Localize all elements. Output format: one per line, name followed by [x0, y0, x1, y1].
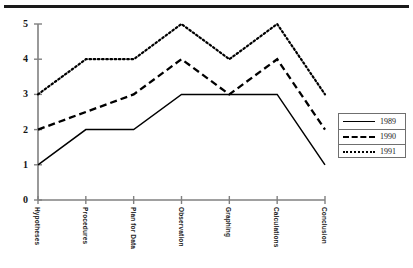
series-lines — [38, 24, 325, 165]
legend-item-1989: 1989 — [339, 114, 405, 129]
x-axis-tick-label: Calculations — [273, 207, 280, 247]
series-line-1991 — [38, 24, 325, 94]
y-axis-tick-label: 4 — [12, 54, 28, 64]
x-axis-tick-label: Observation — [178, 207, 185, 247]
legend-label-1989: 1989 — [380, 117, 396, 126]
x-axis-tick-label: Hypotheses — [34, 207, 41, 245]
chart-legend: 198919901991 — [338, 113, 406, 158]
legend-swatch-1989 — [343, 121, 375, 122]
legend-label-1991: 1991 — [380, 147, 396, 156]
y-axis-tick-label: 5 — [12, 19, 28, 29]
legend-label-1990: 1990 — [380, 132, 396, 141]
top-divider-rule — [4, 5, 409, 8]
y-axis-tick-label: 3 — [12, 89, 28, 99]
y-axis-tick-label: 1 — [12, 160, 28, 170]
line-chart: 012345 HypothesesProceduresPlan for Data… — [0, 10, 413, 265]
legend-item-1990: 1990 — [339, 129, 405, 144]
y-axis-tick-label: 0 — [12, 195, 28, 205]
legend-swatch-1991 — [343, 151, 375, 153]
legend-swatch-1990 — [343, 136, 375, 138]
x-axis-tick-label: Plan for Data — [130, 207, 137, 249]
legend-item-1991: 1991 — [339, 144, 405, 159]
y-axis-tick-label: 2 — [12, 125, 28, 135]
x-axis-tick-label: Procedures — [82, 207, 89, 244]
series-line-1989 — [38, 94, 325, 164]
x-axis-tick-label: Conclusion — [321, 207, 328, 244]
x-axis-tick-label: Graphing — [225, 207, 232, 237]
chart-page: 012345 HypothesesProceduresPlan for Data… — [0, 0, 413, 268]
